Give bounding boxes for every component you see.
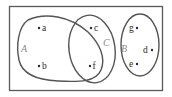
element-g: g — [129, 23, 138, 33]
element-c: c — [90, 23, 98, 33]
element-label: d — [143, 45, 148, 55]
element-label: a — [42, 23, 47, 33]
set-a-outline — [18, 16, 103, 81]
element-d: d — [143, 45, 153, 55]
element-dot — [38, 65, 40, 67]
venn-diagram: A C B a b c f g d e — [0, 0, 172, 97]
element-label: g — [129, 23, 134, 33]
element-label: f — [93, 61, 97, 71]
element-dot — [89, 65, 91, 67]
set-b-label: B — [121, 43, 127, 54]
element-dot — [38, 27, 40, 29]
element-b: b — [38, 61, 47, 71]
element-dot — [90, 27, 92, 29]
element-a: a — [38, 23, 47, 33]
element-label: c — [94, 23, 98, 33]
element-dot — [136, 63, 138, 65]
set-c-label: C — [103, 37, 110, 48]
element-label: e — [129, 59, 133, 69]
set-a-label: A — [20, 43, 28, 54]
element-dot — [136, 27, 138, 29]
set-c-outline — [64, 12, 119, 86]
element-dot — [151, 49, 153, 51]
element-label: b — [42, 61, 47, 71]
element-e: e — [129, 59, 138, 69]
element-f: f — [89, 61, 97, 71]
universe-frame — [10, 7, 163, 91]
